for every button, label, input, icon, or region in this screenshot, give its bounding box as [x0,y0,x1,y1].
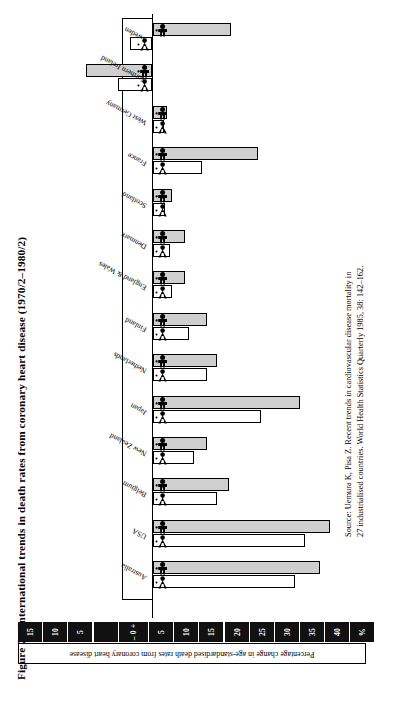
bar-female[interactable] [153,120,164,133]
chart-figure: SwedenNorthern IrelandWest GermanyFrance… [18,14,366,664]
female-figure-icon [155,493,170,506]
male-figure-icon [155,438,170,451]
bar-male[interactable] [153,147,259,160]
bar-male[interactable] [153,561,321,574]
axis-tick-label: 10 [51,628,60,636]
female-figure-icon [155,369,170,382]
bar-male[interactable] [153,520,330,533]
axis-tick-label: 25 [257,628,266,636]
country-label: Finland [123,315,148,334]
male-figure-icon [155,521,170,534]
bar-male[interactable] [153,106,168,119]
male-figure-icon [155,24,170,37]
bar-female[interactable] [153,575,296,588]
axis-tick-label: 30 [282,628,291,636]
axis-tick-0: – 0 + [119,622,148,642]
bar-male[interactable] [153,271,185,284]
country-group: France [18,146,366,187]
bar-female[interactable] [153,203,165,216]
bar-female[interactable] [153,161,202,174]
male-figure-icon [155,190,170,203]
bar-male[interactable] [153,478,229,491]
male-figure-icon [155,562,170,575]
axis-tick-10: 10 [174,622,198,642]
country-label: Japan [129,401,148,417]
axis-tick-15: 15 [18,622,42,642]
country-group: Belgium [18,477,366,518]
female-figure-icon [155,286,170,299]
country-group: Northern Ireland [18,63,366,104]
country-group: USA [18,519,366,560]
female-figure-icon [155,452,170,465]
axis-tick-label: 10 [182,628,191,636]
axis-tick-label: 15 [207,628,216,636]
axis-tick-label: 40 [333,628,342,636]
bar-male[interactable] [153,396,301,409]
bar-male[interactable] [153,354,217,367]
axis-tick-zero: % [350,622,374,642]
country-label: USA [130,526,148,541]
bar-female[interactable] [153,368,207,381]
female-figure-icon [155,411,170,424]
axis-tick-label: – 0 + [129,624,138,641]
country-group: England & Wales [18,270,366,311]
axis-caption-text: Percentage change in age-standardised de… [70,649,315,658]
female-figure-icon [155,576,170,589]
axis-tick-label: % [358,628,367,636]
axis-tick-30: 30 [275,622,299,642]
male-figure-icon [155,479,170,492]
bar-female[interactable] [153,410,261,423]
bar-male[interactable] [153,313,207,326]
female-figure-icon [155,328,170,341]
bar-male[interactable] [153,189,173,202]
axis-tick-10: 10 [43,622,67,642]
female-figure-icon [155,245,170,258]
bar-female[interactable] [153,534,306,547]
male-figure-icon [155,148,170,161]
country-group: Australia [18,560,366,601]
axis-caption: Percentage change in age-standardised de… [18,643,366,664]
axis-tick-35: 35 [300,622,324,642]
axis-tick-5: 5 [68,622,92,642]
female-figure-icon [155,162,170,175]
bar-female[interactable] [153,492,217,505]
male-figure-icon [155,107,170,120]
axis-scale-strip: 15105– 0 +510152025303540% [18,622,366,642]
female-figure-icon [155,204,170,217]
male-figure-icon [155,314,170,327]
country-label: Belgium [121,480,148,500]
bar-female[interactable] [153,327,190,340]
female-figure-icon [155,121,170,134]
country-group: Japan [18,395,366,436]
axis-tick-label: 35 [308,628,317,636]
country-group: Netherlands [18,353,366,394]
bar-female[interactable] [153,285,173,298]
male-figure-icon [155,231,170,244]
bars-area: SwedenNorthern IrelandWest GermanyFrance… [18,14,366,618]
country-label: Denmark [119,230,148,251]
country-label: New Zealand [108,431,148,458]
axis-tick-40: 40 [325,622,349,642]
axis-tick-label: 5 [156,630,165,634]
axis-tick-label: 15 [26,628,35,636]
bar-male[interactable] [153,23,232,36]
country-label: France [126,151,148,169]
country-group: Sweden [18,22,366,63]
female-figure-icon [155,535,170,548]
country-group: Denmark [18,229,366,270]
axis-tick-label: 5 [76,630,85,634]
axis-tick-blank-3 [94,622,118,642]
country-label: Netherlands [111,350,148,375]
male-figure-icon [155,272,170,285]
country-label: Australia [119,562,148,583]
country-group: New Zealand [18,436,366,477]
country-group: West Germany [18,105,366,146]
country-group: Scotland [18,188,366,229]
bar-female[interactable] [153,244,170,257]
axis-tick-5: 5 [149,622,173,642]
bar-male[interactable] [153,437,207,450]
axis-tick-20: 20 [225,622,249,642]
bar-male[interactable] [153,230,185,243]
male-figure-icon [155,355,170,368]
bar-female[interactable] [153,451,195,464]
